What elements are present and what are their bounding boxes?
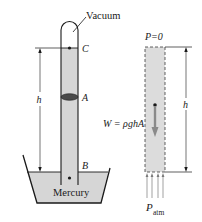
mercury-column bbox=[61, 48, 78, 173]
arrowhead-up-icon bbox=[184, 47, 187, 52]
arrowhead-down-icon bbox=[184, 167, 187, 172]
label-b: B bbox=[82, 160, 88, 171]
label-vacuum: Vacuum bbox=[86, 10, 120, 21]
barometer-apparatus: Vacuum C A B Mercury h bbox=[23, 10, 120, 203]
label-patm-subscript: atm bbox=[153, 208, 164, 217]
label-h-left: h bbox=[37, 94, 42, 105]
point-b-dot bbox=[68, 176, 71, 179]
point-c-dot bbox=[68, 46, 71, 49]
label-mercury: Mercury bbox=[53, 187, 90, 198]
height-dimension-left: h bbox=[35, 48, 61, 172]
label-c: C bbox=[82, 43, 89, 54]
label-weight: W = ρghA bbox=[103, 118, 145, 129]
atmospheric-pressure-arrows bbox=[146, 173, 165, 198]
label-p-zero: P=0 bbox=[144, 31, 163, 42]
arrowhead-up-icon bbox=[38, 48, 41, 53]
vacuum-leader bbox=[73, 17, 86, 32]
free-body-diagram: P=0 W = ρghA h P atm bbox=[103, 31, 192, 217]
label-h-right: h bbox=[183, 99, 188, 110]
arrowhead-down-icon bbox=[38, 167, 41, 172]
label-patm: P bbox=[145, 201, 153, 213]
label-a: A bbox=[81, 92, 89, 103]
height-dimension-right: h bbox=[165, 47, 192, 172]
cross-section-a bbox=[61, 94, 78, 101]
barometer-figure: Vacuum C A B Mercury h P=0 W = ρghA bbox=[0, 0, 202, 222]
